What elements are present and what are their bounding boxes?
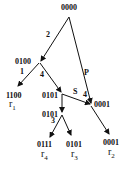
result-r2: r2 [108,147,115,160]
edge-label-4b: 4 [83,91,87,99]
node-0001mid-label: 0001 [94,101,110,109]
node-0111-label: 0111 [37,141,52,149]
edge-label-p: P [84,69,89,77]
result-r4: r4 [41,149,48,162]
edge-label-s: S [73,88,77,96]
edge-label-2: 2 [46,31,50,39]
node-0101b-label: 0101 [42,111,58,119]
result-r1: r1 [9,99,16,112]
result-r3: r3 [71,149,78,162]
node-0100-label: 0100 [15,58,31,66]
node-0101a-label: 0101 [42,92,58,100]
edge-label-3: 3 [51,117,55,125]
node-root-label: 0000 [61,4,77,12]
edge-label-4a: 4 [40,71,44,79]
edge-label-1: 1 [20,68,24,76]
